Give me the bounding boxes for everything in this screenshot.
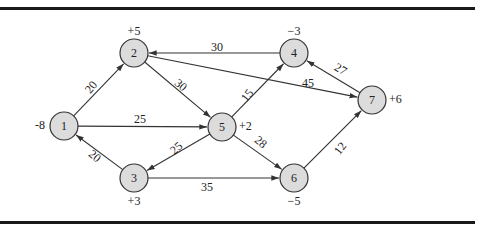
node-6: 6 (280, 164, 308, 192)
edge-weight-label: 15 (238, 86, 256, 104)
node-label: 2 (131, 46, 137, 60)
node-1: 1 (50, 112, 78, 140)
node-label: 3 (131, 171, 137, 185)
node-label: 7 (369, 93, 375, 107)
edge-weight-label: 30 (211, 40, 223, 54)
node-supply-label: +3 (128, 194, 141, 208)
node-2: 2 (120, 39, 148, 67)
edge-1-5 (78, 126, 207, 127)
node-label: 4 (291, 46, 297, 60)
node-7: 7 (358, 86, 386, 114)
edge-5-4 (232, 64, 284, 117)
node-5: 5 (208, 113, 236, 141)
node-label: 5 (219, 120, 225, 134)
edge-weight-label: 20 (82, 78, 100, 96)
edge-weight-label: 25 (167, 139, 185, 157)
node-supply-label: −5 (288, 194, 301, 208)
node-supply-label: +2 (239, 119, 252, 133)
edge-weight-label: 28 (252, 133, 270, 151)
node-supply-label: +5 (128, 24, 141, 38)
edge-6-7 (304, 111, 361, 168)
node-4: 4 (280, 39, 308, 67)
edge-1-2 (74, 64, 124, 116)
node-label: 6 (291, 171, 297, 185)
node-supply-label: −3 (288, 24, 301, 38)
edge-weight-label: 45 (302, 76, 314, 90)
node-supply-label: -8 (35, 118, 45, 132)
edge-7-4 (307, 61, 360, 93)
node-3: 3 (120, 164, 148, 192)
edge-weight-label: 30 (172, 76, 190, 94)
edge-weight-label: 20 (86, 147, 104, 165)
edge-weight-label: 12 (331, 139, 349, 157)
edge-weight-label: 27 (332, 60, 349, 78)
node-label: 1 (61, 119, 67, 133)
edge-weight-label: 25 (134, 112, 146, 126)
nodes: 1234567 (50, 39, 386, 192)
network-diagram: 202530452035302515281227 1234567 -8+5+3−… (0, 0, 503, 226)
node-supply-label: +6 (389, 92, 402, 106)
edge-weight-label: 35 (201, 180, 213, 194)
